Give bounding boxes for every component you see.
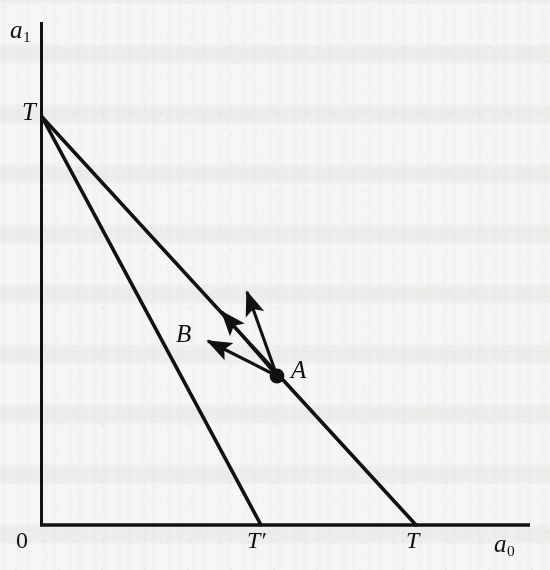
origin-label: 0 — [16, 527, 28, 554]
point-label-a: A — [291, 356, 306, 384]
x-axis-label-subscript: 0 — [507, 542, 515, 559]
x-axis-tick-label-t: T — [406, 527, 419, 554]
x-axis-label-text: a — [494, 530, 507, 557]
y-axis-label: a1 — [10, 16, 31, 46]
y-axis-label-subscript: 1 — [23, 28, 31, 45]
x-axis-label: a0 — [494, 530, 515, 560]
arrow-along-line — [222, 312, 277, 376]
x-axis-tick-label-t-prime: T′ — [247, 527, 266, 554]
y-intercept-label-t: T — [22, 98, 36, 126]
y-axis-label-text: a — [10, 16, 23, 43]
plot-area — [0, 0, 550, 570]
point-a-marker — [270, 369, 285, 384]
point-label-b: B — [176, 320, 191, 348]
budget-constraint-figure: a1 a0 T A B 0 T′ T — [0, 0, 550, 570]
